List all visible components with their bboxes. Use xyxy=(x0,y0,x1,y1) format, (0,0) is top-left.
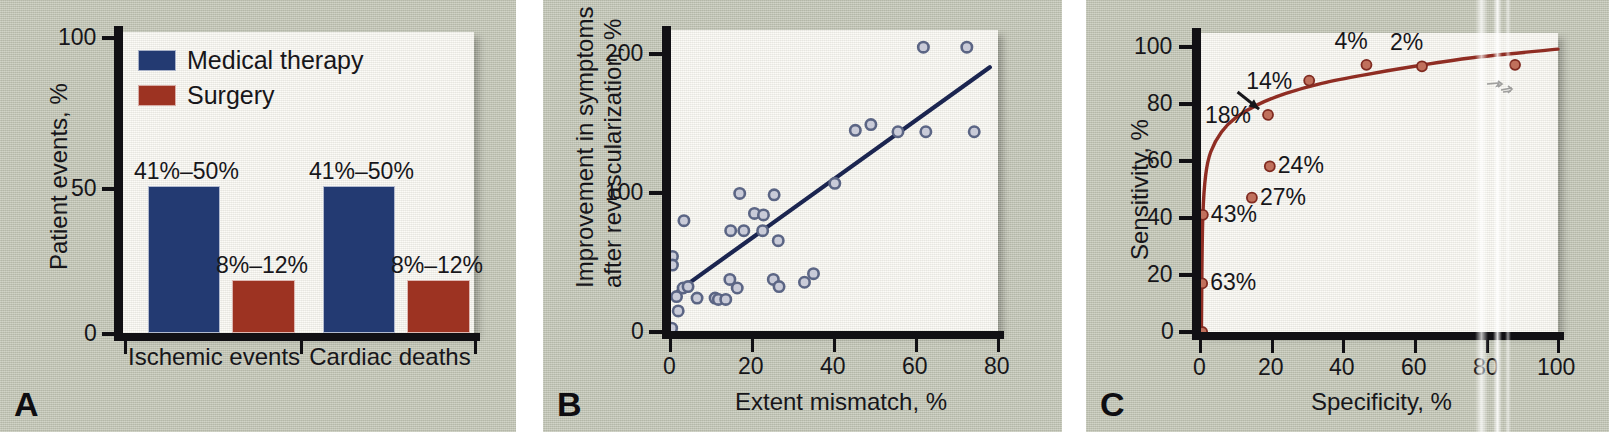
panel-c-xtick-label-0: 0 xyxy=(1193,356,1206,379)
panel-c-ytick-80 xyxy=(1179,102,1193,106)
bar-medical-ischemic xyxy=(148,186,220,333)
panel-b-y-axis xyxy=(662,26,671,336)
panel-a-ytick-0 xyxy=(102,332,115,336)
bar-surgery-ischemic xyxy=(232,280,295,333)
panel-b-xtick-label-40: 40 xyxy=(820,355,846,378)
panel-c-point-label-27: 27% xyxy=(1260,186,1306,209)
panel-c-ytick-100 xyxy=(1179,45,1193,49)
panel-b: 200 100 0 Improvement in symptoms after … xyxy=(543,0,1062,432)
panel-b-xtick-40 xyxy=(833,339,836,352)
figure-container: 100 50 0 Patient events, % Medical thera… xyxy=(0,0,1609,432)
legend-swatch-surgery xyxy=(138,85,176,106)
bar-surgery-cardiac xyxy=(407,280,470,333)
panel-b-xtick-label-0: 0 xyxy=(663,355,676,378)
panel-c-xtick-40 xyxy=(1342,340,1345,353)
panel-c-ytick-label-0: 0 xyxy=(1161,320,1174,343)
panel-a-x-axis xyxy=(114,333,480,341)
panel-c-xtick-label-80: 80 xyxy=(1473,356,1499,379)
panel-c-x-axis-title: Specificity, % xyxy=(1311,388,1452,416)
panel-c-ytick-60 xyxy=(1179,159,1193,163)
panel-c-ytick-label-20: 20 xyxy=(1147,263,1173,286)
panel-a-ytick-50 xyxy=(102,187,115,191)
panel-b-xtick-label-60: 60 xyxy=(902,355,928,378)
panel-b-xtick-label-20: 20 xyxy=(738,355,764,378)
panel-c-y-axis xyxy=(1192,28,1201,336)
panel-b-y-axis-title-line2: after revascularization, % xyxy=(599,19,627,288)
panel-c-xtick-label-40: 40 xyxy=(1329,356,1355,379)
panel-b-xtick-0 xyxy=(669,339,672,352)
panel-b-xtick-80 xyxy=(997,339,1000,352)
panel-c-point-label-43: 43% xyxy=(1211,203,1257,226)
panel-a: 100 50 0 Patient events, % Medical thera… xyxy=(0,0,516,432)
panel-a-xtick-left xyxy=(124,341,127,354)
panel-c-xtick-80 xyxy=(1486,340,1489,353)
panel-a-xtick-mid xyxy=(300,341,303,354)
panel-c-xtick-0 xyxy=(1199,340,1202,353)
panel-a-letter: A xyxy=(14,385,39,424)
legend-item-medical-therapy: Medical therapy xyxy=(138,46,363,75)
bar-label-surgery-cardiac: 8%–12% xyxy=(391,252,483,279)
panel-b-xtick-20 xyxy=(751,339,754,352)
bar-label-medical-ischemic: 41%–50% xyxy=(134,158,239,185)
panel-c-xtick-label-20: 20 xyxy=(1258,356,1284,379)
panel-a-category-cardiac: Cardiac deaths xyxy=(304,342,476,371)
panel-c-point-label-24: 24% xyxy=(1278,154,1324,177)
panel-c-xtick-60 xyxy=(1414,340,1417,353)
panel-c-point-label-4: 4% xyxy=(1334,30,1367,53)
panel-b-ytick-100 xyxy=(649,191,663,195)
panel-b-ytick-label-0: 0 xyxy=(631,320,644,343)
panel-a-ytick-label-0: 0 xyxy=(84,322,97,345)
panel-b-y-axis-title-line1: Improvement in symptoms xyxy=(571,7,599,288)
legend-swatch-medical-therapy xyxy=(138,50,176,71)
panel-a-ytick-100 xyxy=(102,36,115,40)
panel-gap-ab xyxy=(516,0,543,432)
panel-c-xtick-100 xyxy=(1557,340,1560,353)
bar-label-medical-cardiac: 41%–50% xyxy=(309,158,414,185)
panel-a-category-ischemic: Ischemic events xyxy=(128,342,300,371)
bar-label-surgery-ischemic: 8%–12% xyxy=(216,252,308,279)
panel-a-legend: Medical therapy Surgery xyxy=(138,46,363,116)
panel-b-ytick-0 xyxy=(649,330,663,334)
panel-c-letter: C xyxy=(1100,385,1125,424)
panel-a-category-ischemic-label: Ischemic events xyxy=(128,343,300,370)
panel-c-point-label-18: 18% xyxy=(1205,104,1251,127)
panel-c-ytick-label-80: 80 xyxy=(1147,92,1173,115)
panel-a-ytick-label-50: 50 xyxy=(71,177,97,200)
panel-a-ytick-label-100: 100 xyxy=(58,26,96,49)
panel-c: 100 80 60 40 20 0 Sensitivity, % 0 20 40… xyxy=(1086,0,1609,432)
panel-a-y-axis xyxy=(114,26,123,340)
legend-label-surgery: Surgery xyxy=(187,81,275,110)
panel-b-letter: B xyxy=(557,385,582,424)
panel-c-ytick-label-100: 100 xyxy=(1134,35,1172,58)
panel-b-xtick-label-80: 80 xyxy=(984,355,1010,378)
panel-a-y-axis-title: Patient events, % xyxy=(45,83,73,270)
panel-c-y-axis-title: Sensitivity, % xyxy=(1126,119,1154,260)
panel-b-ytick-200 xyxy=(649,52,663,56)
panel-c-point-label-63: 63% xyxy=(1210,271,1256,294)
panel-a-category-cardiac-label: Cardiac deaths xyxy=(309,343,470,370)
legend-label-medical-therapy: Medical therapy xyxy=(187,46,363,75)
legend-item-surgery: Surgery xyxy=(138,81,363,110)
panel-c-ytick-0 xyxy=(1179,330,1193,334)
panel-c-xtick-label-60: 60 xyxy=(1401,356,1427,379)
panel-b-xtick-60 xyxy=(915,339,918,352)
panel-c-point-label-2: 2% xyxy=(1390,31,1423,54)
bar-medical-cardiac xyxy=(323,186,395,333)
panel-c-ytick-40 xyxy=(1179,216,1193,220)
panel-b-x-axis-title: Extent mismatch, % xyxy=(735,388,947,416)
panel-c-x-axis xyxy=(1192,332,1564,340)
panel-c-xtick-20 xyxy=(1271,340,1274,353)
panel-c-point-label-14: 14% xyxy=(1246,70,1292,93)
panel-gap-bc xyxy=(1062,0,1086,432)
panel-c-xtick-label-100: 100 xyxy=(1537,356,1575,379)
panel-b-x-axis xyxy=(662,331,1004,339)
panel-c-ytick-20 xyxy=(1179,273,1193,277)
